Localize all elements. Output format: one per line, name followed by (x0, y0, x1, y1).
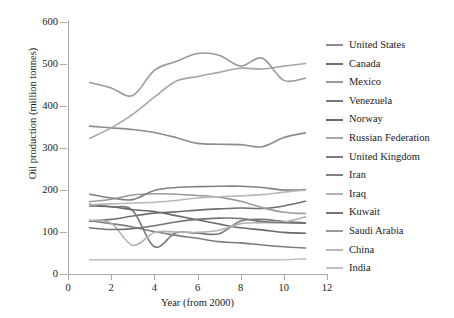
legend-item[interactable]: Iraq (326, 185, 454, 204)
legend-item[interactable]: Mexico (326, 73, 454, 92)
legend-item[interactable]: Venezuela (326, 92, 454, 111)
legend-line-swatch (326, 193, 343, 195)
legend-line-swatch (326, 100, 343, 102)
y-axis-title: Oil production (million tonnes) (27, 14, 38, 214)
legend-item[interactable]: United States (326, 36, 454, 55)
legend-line-swatch (326, 230, 343, 232)
legend-label: Canada (349, 59, 381, 70)
series-lines (0, 0, 340, 318)
x-axis-title: Year (from 2000) (68, 297, 327, 308)
legend-line-swatch (326, 267, 343, 269)
legend-label: Norway (349, 114, 383, 125)
legend-item[interactable]: Iran (326, 166, 454, 185)
legend-label: Russian Federation (349, 133, 430, 144)
legend-line-swatch (326, 81, 343, 83)
series-line (90, 64, 306, 139)
legend-item[interactable]: Norway (326, 110, 454, 129)
series-line (90, 53, 306, 96)
series-line (90, 259, 306, 260)
legend-line-swatch (326, 249, 343, 251)
series-line (90, 201, 306, 221)
legend-label: Iraq (349, 189, 366, 200)
legend-item[interactable]: Saudi Arabia (326, 222, 454, 241)
legend-item[interactable]: United Kingdom (326, 148, 454, 167)
legend-line-swatch (326, 212, 343, 214)
series-line (90, 126, 306, 147)
legend-label: United States (349, 40, 405, 51)
legend-line-swatch (326, 63, 343, 65)
legend-item[interactable]: Canada (326, 55, 454, 74)
legend-label: China (349, 245, 374, 256)
legend-label: Kuwait (349, 207, 380, 218)
legend-line-swatch (326, 174, 343, 176)
legend-line-swatch (326, 119, 343, 121)
chart-figure: 0100200300400500600 024681012 Oil produc… (0, 0, 454, 318)
legend-line-swatch (326, 156, 343, 158)
legend-label: Venezuela (349, 96, 392, 107)
legend-item[interactable]: Russian Federation (326, 129, 454, 148)
legend-label: Mexico (349, 77, 381, 88)
legend-item[interactable]: Kuwait (326, 203, 454, 222)
legend-line-swatch (326, 44, 343, 46)
legend-label: Saudi Arabia (349, 226, 404, 237)
legend-label: India (349, 263, 371, 274)
legend-line-swatch (326, 137, 343, 139)
plot-area: 0100200300400500600 024681012 Oil produc… (0, 0, 340, 318)
legend-label: Iran (349, 170, 366, 181)
legend: United StatesCanadaMexicoVenezuelaNorway… (326, 36, 454, 278)
legend-item[interactable]: India (326, 259, 454, 278)
legend-item[interactable]: China (326, 241, 454, 260)
legend-label: United Kingdom (349, 152, 420, 163)
